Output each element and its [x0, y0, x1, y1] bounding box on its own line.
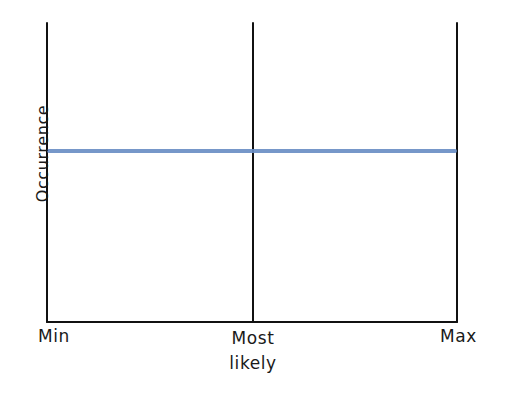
- most-likely-divider-line: [252, 22, 254, 323]
- y-axis-label: Occurrence: [33, 94, 52, 214]
- x-tick-label-min: Min: [38, 326, 70, 346]
- x-axis-line: [46, 321, 458, 323]
- chart-canvas: Occurrence Min Most likely Max: [0, 0, 507, 402]
- x-tick-label-most-likely-line1: Most: [173, 326, 333, 351]
- x-tick-label-most-likely: Most likely: [173, 326, 333, 376]
- x-tick-label-most-likely-line2: likely: [173, 351, 333, 376]
- uniform-distribution-series: [47, 149, 457, 153]
- x-tick-label-max: Max: [440, 326, 477, 346]
- max-boundary-line: [456, 22, 458, 323]
